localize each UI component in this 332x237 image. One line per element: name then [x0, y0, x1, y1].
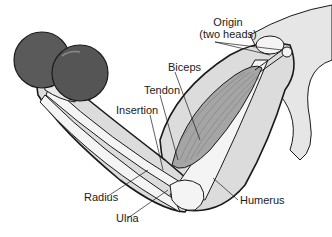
label-humerus: Humerus — [240, 194, 285, 206]
label-origin-line1: Origin — [196, 16, 260, 28]
label-origin-line2: (two heads) — [196, 28, 260, 40]
shoulder-joint — [256, 36, 284, 54]
label-tendon: Tendon — [144, 84, 180, 96]
label-biceps: Biceps — [168, 61, 201, 73]
label-ulna: Ulna — [116, 212, 139, 224]
label-insertion: Insertion — [116, 104, 158, 116]
dumbbell-plate-front — [52, 45, 108, 101]
label-origin: Origin (two heads) — [196, 16, 260, 40]
label-radius: Radius — [84, 191, 118, 203]
